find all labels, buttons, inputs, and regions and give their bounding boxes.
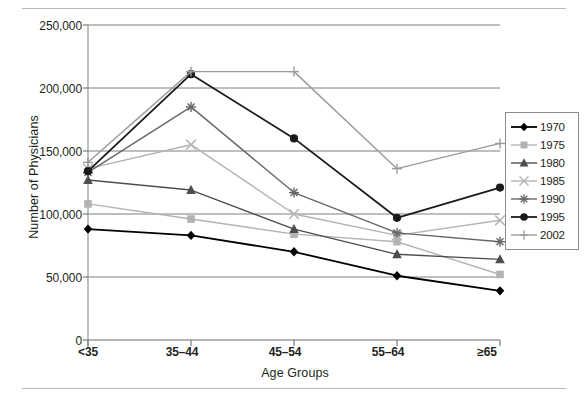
y-tick-250000: 250,000 <box>8 19 82 33</box>
y-tick-200000: 200,000 <box>8 82 82 96</box>
legend-label: 2002 <box>538 229 565 241</box>
y-axis-tick-labels: 250,000 200,000 150,000 100,000 50,000 0 <box>8 0 82 398</box>
chart-figure: 250,000 200,000 150,000 100,000 50,000 0… <box>0 0 588 398</box>
legend-label: 1975 <box>538 139 565 151</box>
legend-label: 1970 <box>538 121 565 133</box>
marker-plus <box>495 138 505 148</box>
series-1995 <box>84 70 504 222</box>
x-axis-title: Age Groups <box>85 366 505 380</box>
marker-asterisk <box>186 102 196 112</box>
marker-circle <box>520 213 528 221</box>
legend-marker-x-icon <box>510 174 538 188</box>
legend-item-1990[interactable]: 1990 <box>510 190 574 208</box>
legend-item-1985[interactable]: 1985 <box>510 172 574 190</box>
axis-lines <box>83 25 500 348</box>
marker-square <box>187 215 195 223</box>
marker-diamond <box>187 231 196 240</box>
legend-item-1975[interactable]: 1975 <box>510 136 574 154</box>
legend-marker-asterisk-icon <box>510 192 538 206</box>
marker-square <box>496 271 504 279</box>
marker-square <box>521 142 528 149</box>
bottom-divider-rule <box>22 388 566 389</box>
y-tick-100000: 100,000 <box>8 208 82 222</box>
marker-plus <box>519 230 528 239</box>
marker-diamond <box>393 271 402 280</box>
marker-asterisk <box>289 188 299 198</box>
series-1975 <box>84 200 504 278</box>
y-tick-150000: 150,000 <box>8 145 82 159</box>
marker-circle <box>84 167 92 175</box>
marker-circle <box>393 214 401 222</box>
x-tick-under35: <35 <box>53 345 123 359</box>
legend-marker-triangle-icon <box>510 156 538 170</box>
marker-asterisk <box>519 194 528 203</box>
legend-label: 1985 <box>538 175 565 187</box>
legend-label: 1990 <box>538 193 565 205</box>
x-tick-65plus: ≥65 <box>452 345 522 359</box>
marker-asterisk <box>392 228 402 238</box>
legend-marker-diamond-icon <box>510 120 538 134</box>
plot-area <box>0 0 588 398</box>
x-tick-35-44: 35–44 <box>147 345 217 359</box>
series-2002 <box>83 67 505 174</box>
data-series <box>83 67 505 296</box>
marker-diamond <box>496 286 505 295</box>
chart-legend: 1970197519801985199019952002 <box>505 112 579 250</box>
legend-item-2002[interactable]: 2002 <box>510 226 574 244</box>
marker-square <box>84 200 92 208</box>
y-axis-title: Number of Physicians <box>27 77 41 277</box>
x-tick-45-54: 45–54 <box>250 345 320 359</box>
legend-marker-circle-icon <box>510 210 538 224</box>
legend-item-1970[interactable]: 1970 <box>510 118 574 136</box>
x-tick-55-64: 55–64 <box>353 345 423 359</box>
legend-label: 1980 <box>538 157 565 169</box>
legend-item-1980[interactable]: 1980 <box>510 154 574 172</box>
legend-marker-square-icon <box>510 138 538 152</box>
y-tick-50000: 50,000 <box>8 271 82 285</box>
marker-diamond <box>290 247 299 256</box>
gridlines <box>88 25 500 277</box>
marker-circle <box>496 183 504 191</box>
marker-x <box>186 140 196 150</box>
marker-diamond <box>520 123 528 132</box>
top-divider-rule <box>22 8 566 9</box>
legend-marker-plus-icon <box>510 228 538 242</box>
marker-circle <box>290 134 298 142</box>
legend-item-1995[interactable]: 1995 <box>510 208 574 226</box>
marker-diamond <box>84 224 93 233</box>
legend-label: 1995 <box>538 211 565 223</box>
marker-asterisk <box>495 237 505 247</box>
